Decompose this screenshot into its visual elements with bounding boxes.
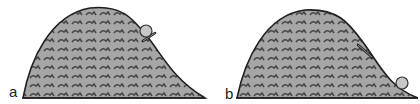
panel-b: b (210, 0, 420, 104)
hill-diagram-b (210, 0, 420, 104)
ball-icon (140, 25, 152, 37)
panel-label-b: b (225, 86, 233, 101)
panel-label-a: a (9, 84, 17, 99)
hill-diagram-a (0, 0, 210, 104)
ball-icon (396, 77, 408, 89)
panel-a: a (0, 0, 210, 104)
